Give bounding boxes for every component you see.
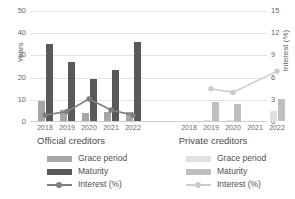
legend-label-private-grace: Grace period bbox=[217, 153, 266, 164]
group-title-official: Official creditors bbox=[21, 135, 121, 146]
y-tick-left-20: 20 bbox=[4, 74, 26, 82]
y-tick-right-12: 12 bbox=[271, 29, 293, 37]
legend-swatch-interest-line-icon bbox=[47, 181, 72, 188]
interest-marker bbox=[130, 112, 135, 117]
legend-swatch-grace-icon bbox=[186, 156, 211, 162]
legend-item-private-interest: Interest (%) bbox=[186, 178, 266, 191]
y-tick-right-6: 6 bbox=[271, 74, 293, 82]
x-tick-private-2021: 2021 bbox=[243, 124, 267, 131]
x-tick-private-2020: 2020 bbox=[221, 124, 245, 131]
legend-item-private-maturity: Maturity bbox=[186, 165, 266, 178]
legend-item-official-grace: Grace period bbox=[47, 152, 127, 165]
group-title-private: Private creditors bbox=[163, 135, 263, 146]
legend-official: Grace period Maturity Interest (%) bbox=[47, 152, 127, 191]
x-tick-official-2022: 2022 bbox=[121, 124, 145, 131]
interest-marker bbox=[108, 107, 113, 112]
legend-label-official-interest: Interest (%) bbox=[78, 179, 122, 190]
legend-swatch-grace-icon bbox=[47, 156, 72, 162]
interest-line bbox=[211, 71, 277, 92]
bar-maturity bbox=[278, 99, 285, 121]
y-tick-left-0: 0 bbox=[4, 118, 26, 126]
legend-swatch-maturity-icon bbox=[186, 169, 211, 175]
legend-swatch-maturity-icon bbox=[47, 169, 72, 175]
y-tick-left-40: 40 bbox=[4, 29, 26, 37]
legend-private: Grace period Maturity Interest (%) bbox=[186, 152, 266, 191]
x-tick-official-2018: 2018 bbox=[33, 124, 57, 131]
legend-label-private-interest: Interest (%) bbox=[217, 179, 261, 190]
legend-item-private-grace: Grace period bbox=[186, 152, 266, 165]
interest-marker bbox=[86, 96, 91, 101]
legend-item-official-interest: Interest (%) bbox=[47, 178, 127, 191]
x-tick-official-2020: 2020 bbox=[77, 124, 101, 131]
legend-item-official-maturity: Maturity bbox=[47, 165, 127, 178]
y-tick-right-15: 15 bbox=[271, 7, 293, 15]
interest-marker bbox=[208, 86, 213, 91]
x-tick-private-2019: 2019 bbox=[199, 124, 223, 131]
x-tick-official-2021: 2021 bbox=[99, 124, 123, 131]
x-tick-private-2022: 2022 bbox=[265, 124, 289, 131]
interest-marker bbox=[42, 112, 47, 117]
legend-label-official-grace: Grace period bbox=[78, 153, 127, 164]
x-tick-official-2019: 2019 bbox=[55, 124, 79, 131]
bar-grace-period bbox=[270, 111, 277, 121]
chart-figure: Years Interest (%) 50 40 30 20 10 0 15 1… bbox=[0, 0, 295, 199]
y-tick-left-50: 50 bbox=[4, 7, 26, 15]
interest-lines-layer bbox=[30, 11, 267, 122]
y-tick-right-9: 9 bbox=[271, 51, 293, 59]
x-tick-private-2018: 2018 bbox=[177, 124, 201, 131]
plot-area bbox=[30, 11, 267, 122]
legend-label-private-maturity: Maturity bbox=[217, 166, 247, 177]
y-tick-left-10: 10 bbox=[4, 96, 26, 104]
legend-label-official-maturity: Maturity bbox=[78, 166, 108, 177]
interest-marker bbox=[230, 90, 235, 95]
y-tick-left-30: 30 bbox=[4, 51, 26, 59]
legend-swatch-interest-line-icon bbox=[186, 181, 211, 188]
interest-marker bbox=[64, 109, 69, 114]
interest-marker bbox=[274, 68, 279, 73]
